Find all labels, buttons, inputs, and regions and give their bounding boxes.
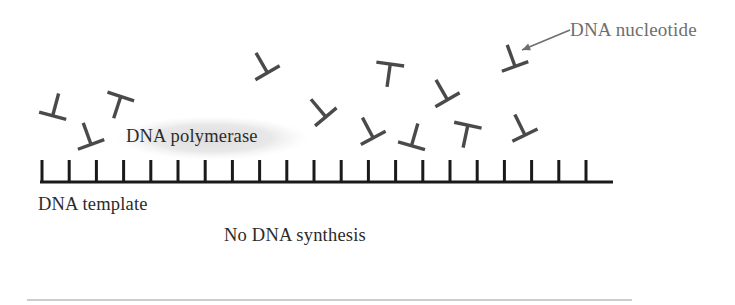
dna-nucleotide <box>502 108 537 141</box>
dna-nucleotide <box>300 90 336 126</box>
dna-nucleotide <box>70 118 104 149</box>
dna-nucleotide <box>398 120 431 150</box>
dna-template-label: DNA template <box>38 194 148 215</box>
nucleotide-stroke <box>515 114 525 135</box>
nucleotide-stroke <box>361 131 386 144</box>
dna-nucleotide <box>244 46 280 80</box>
dna-nucleotide <box>449 122 481 150</box>
dna-nucleotide <box>494 40 528 71</box>
dna-template-strand <box>40 160 613 182</box>
dna-nucleotide <box>373 62 404 89</box>
dna-nucleotide <box>350 111 386 144</box>
nucleotide-stroke <box>507 45 515 67</box>
nucleotide-stroke <box>53 93 59 115</box>
dna-nucleotide <box>100 92 134 123</box>
nucleotide-stroke <box>436 80 448 100</box>
nucleotide-stroke <box>311 99 326 117</box>
nucleotide-stroke <box>83 123 91 145</box>
dna-nucleotide <box>424 73 460 107</box>
nucleotide-stroke <box>362 118 373 138</box>
nucleotide-stroke <box>463 125 468 147</box>
nucleotide-stroke <box>412 124 418 146</box>
figure-canvas <box>0 0 735 305</box>
nucleotide-stroke <box>256 53 268 73</box>
nucleotide-callout-arrow <box>522 30 570 50</box>
dna-polymerase-label: DNA polymerase <box>126 126 258 147</box>
no-dna-synthesis-caption: No DNA synthesis <box>224 225 366 246</box>
nucleotide-stroke <box>387 64 390 87</box>
dna-nucleotide <box>39 90 72 119</box>
nucleotide-stroke <box>114 96 121 118</box>
dna-nucleotide-label: DNA nucleotide <box>570 19 697 41</box>
dna-synthesis-figure: DNA nucleotide DNA polymerase DNA templa… <box>0 0 735 305</box>
